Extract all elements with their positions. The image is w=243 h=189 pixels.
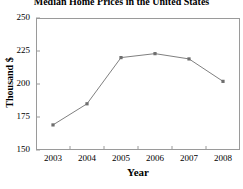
y-axis-title: Thousand $ bbox=[4, 48, 15, 118]
data-point-marker bbox=[221, 80, 224, 83]
data-point-marker bbox=[85, 102, 88, 105]
data-point-marker bbox=[187, 57, 190, 60]
y-tick-label: 250 bbox=[4, 13, 30, 22]
y-tick-label: 150 bbox=[4, 145, 30, 154]
x-axis-ticks bbox=[70, 146, 206, 150]
y-axis-ticks bbox=[36, 18, 40, 150]
x-tick-label: 2008 bbox=[203, 153, 243, 163]
data-point-marker bbox=[51, 123, 54, 126]
x-axis-title: Year bbox=[36, 166, 240, 178]
data-point-marker bbox=[119, 56, 122, 59]
data-point-marker bbox=[153, 52, 156, 55]
line-chart: Median Home Prices in the United States … bbox=[0, 0, 243, 189]
data-point-markers bbox=[51, 52, 224, 126]
data-series-line bbox=[53, 54, 223, 125]
